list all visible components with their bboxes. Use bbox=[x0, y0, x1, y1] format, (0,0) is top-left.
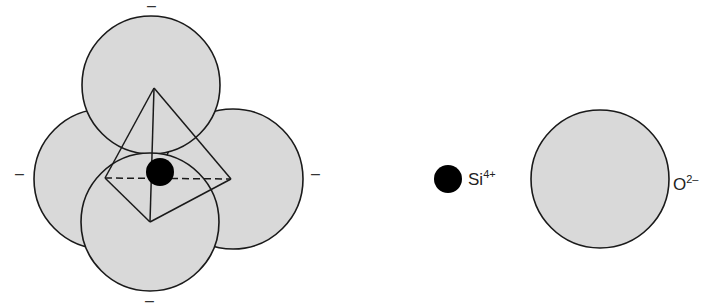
oxygen-charge: 2– bbox=[686, 173, 698, 185]
silicon-ion-legend bbox=[434, 165, 462, 193]
oxygen-label: O2– bbox=[673, 176, 698, 193]
silicon-symbol: Si bbox=[468, 170, 483, 189]
charge-bottom: – bbox=[145, 293, 154, 305]
charge-top: – bbox=[147, 0, 156, 14]
oxygen-sphere-top bbox=[82, 16, 220, 154]
charge-left: – bbox=[15, 166, 24, 182]
silicon-charge: 4+ bbox=[483, 168, 496, 180]
oxygen-ion-legend bbox=[531, 110, 669, 248]
charge-right: – bbox=[311, 166, 320, 182]
oxygen-symbol: O bbox=[673, 175, 686, 194]
silicon-ion-center bbox=[146, 158, 174, 186]
tetrahedron-diagram bbox=[0, 0, 703, 305]
silicon-label: Si4+ bbox=[468, 171, 496, 188]
